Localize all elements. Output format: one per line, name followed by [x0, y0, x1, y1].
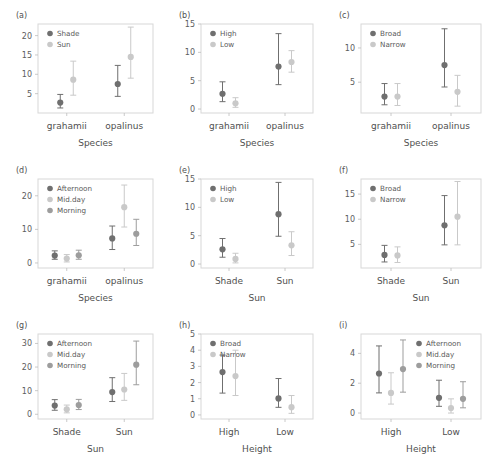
data-point-marker	[232, 100, 238, 106]
figure-panel-grid: (a)5101520grahamiiopalinusSpeciesShadeSu…	[0, 0, 491, 461]
x-category-label: Sun	[442, 276, 459, 286]
panel-e: (e)051015ShadeSunSunHighLow	[163, 155, 323, 310]
legend-label-morning: Morning	[57, 361, 86, 370]
panel-b: (b)051015grahamiiopalinusSpeciesHighLow	[163, 0, 323, 155]
data-point-group	[448, 399, 454, 413]
data-point-marker	[76, 252, 82, 258]
legend-label-broad: Broad	[380, 29, 401, 38]
y-tick-label: 5	[350, 240, 355, 249]
data-point-marker	[381, 252, 387, 258]
data-point-marker	[460, 396, 466, 402]
x-category-label: opalinus	[266, 121, 304, 131]
y-tick-label: 30	[22, 339, 32, 348]
x-category-label: Shade	[215, 276, 244, 286]
data-point-group	[70, 61, 76, 95]
legend-marker-low	[210, 42, 216, 48]
data-point-group	[454, 182, 460, 245]
data-point-marker	[76, 402, 82, 408]
legend-marker-morning	[47, 208, 53, 214]
x-category-label: grahamii	[371, 121, 411, 131]
data-point-group	[394, 247, 400, 263]
data-point-marker	[394, 93, 400, 99]
data-point-marker	[121, 386, 127, 392]
panel-label: (d)	[16, 166, 27, 175]
y-tick-label: 0	[190, 105, 195, 114]
panel-label: (c)	[339, 11, 350, 20]
legend: AfternoonMid.dayMorning	[416, 339, 461, 370]
plot-frame	[38, 24, 153, 113]
legend: HighLow	[210, 29, 236, 49]
x-axis-title: Height	[406, 444, 436, 454]
data-point-marker	[115, 81, 121, 87]
y-tick-label: 15	[345, 190, 355, 199]
legend-marker-broad	[370, 31, 376, 37]
legend-label-broad: Broad	[380, 184, 401, 193]
y-tick-label: 4	[190, 346, 195, 355]
x-category-label: opalinus	[105, 276, 143, 286]
y-tick-label: 10	[22, 225, 32, 234]
data-point-marker	[275, 63, 281, 69]
data-point-marker	[70, 77, 76, 83]
data-point-marker	[109, 235, 115, 241]
y-tick-label: 0	[27, 410, 32, 419]
legend-label-mid-day: Mid.day	[426, 350, 455, 359]
legend-marker-narrow	[370, 197, 376, 203]
data-point-group	[64, 255, 70, 262]
panel-a: (a)5101520grahamiiopalinusSpeciesShadeSu…	[0, 0, 163, 155]
data-point-group	[400, 340, 406, 392]
data-point-group	[275, 34, 281, 85]
data-point-group	[376, 346, 382, 393]
data-point-group	[219, 355, 225, 393]
legend-marker-afternoon	[47, 186, 53, 192]
panel-label: (h)	[179, 321, 190, 330]
y-tick-label: 15	[22, 51, 32, 60]
legend-label-narrow: Narrow	[380, 195, 406, 204]
legend-label-narrow: Narrow	[220, 350, 246, 359]
legend-label-high: High	[220, 184, 237, 193]
legend-marker-narrow	[370, 42, 376, 48]
x-axis-title: Height	[242, 444, 272, 454]
data-point-marker	[381, 93, 387, 99]
x-axis-title: Sun	[248, 293, 265, 303]
x-category-label: Sun	[276, 276, 293, 286]
data-point-group	[288, 396, 294, 414]
data-point-group	[388, 373, 394, 404]
y-tick-label: 5	[350, 78, 355, 87]
data-point-group	[219, 82, 225, 102]
panel-label: (i)	[339, 321, 347, 330]
y-tick-label: 3	[190, 362, 195, 371]
x-category-label: Sun	[116, 427, 133, 437]
panel-i: (i)024HighLowHeightAfternoonMid.dayMorni…	[323, 310, 491, 461]
panel-c: (c)510grahamiiopalinusSpeciesBroadNarrow	[323, 0, 491, 155]
data-point-group	[76, 399, 82, 409]
data-point-marker	[232, 256, 238, 262]
legend-label-afternoon: Afternoon	[57, 184, 92, 193]
legend-label-sun: Sun	[57, 40, 71, 49]
x-category-label: Low	[276, 427, 294, 437]
y-tick-label: 10	[22, 387, 32, 396]
y-tick-label: 15	[185, 175, 195, 184]
data-point-group	[52, 251, 58, 259]
legend-marker-afternoon	[416, 341, 422, 347]
data-point-marker	[121, 204, 127, 210]
y-tick-label: 0	[190, 260, 195, 269]
panel-label: (a)	[16, 11, 27, 20]
y-tick-label: 10	[185, 203, 195, 212]
x-category-label: Shade	[377, 276, 406, 286]
x-axis-title: Sun	[87, 444, 104, 454]
data-point-group	[133, 219, 139, 245]
y-tick-label: 10	[345, 44, 355, 53]
data-point-marker	[288, 242, 294, 248]
y-tick-label: 20	[22, 32, 32, 41]
x-axis-title: Sun	[412, 293, 429, 303]
x-category-label: Shade	[53, 427, 82, 437]
legend-marker-morning	[416, 363, 422, 369]
data-point-marker	[52, 402, 58, 408]
legend-label-mid-day: Mid.day	[57, 195, 86, 204]
data-point-marker	[441, 222, 447, 228]
plot-frame	[201, 179, 313, 268]
data-point-marker	[288, 404, 294, 410]
legend-marker-morning	[47, 363, 53, 369]
data-point-marker	[219, 246, 225, 252]
legend-label-afternoon: Afternoon	[426, 339, 461, 348]
